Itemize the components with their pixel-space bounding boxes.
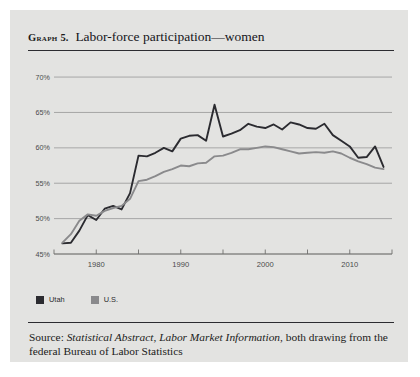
y-tick-label: 60%	[36, 143, 51, 152]
y-tick-label: 55%	[36, 179, 51, 188]
source-italic-statistical-abstract: Statistical Abstract	[67, 331, 154, 343]
graph-number: 5.	[61, 32, 69, 43]
y-tick-label: 45%	[36, 250, 51, 259]
source-italic-labor-market-information: Labor Market Information	[159, 331, 280, 343]
x-tick-label: 2000	[257, 260, 274, 269]
chart-legend: Utah U.S.	[36, 292, 144, 307]
legend-item-us: U.S.	[91, 295, 118, 304]
series-line-utah	[62, 105, 383, 244]
y-tick-label: 50%	[36, 214, 51, 223]
x-tick-label: 1980	[88, 260, 105, 269]
graph-label: Graph	[28, 32, 58, 43]
line-chart: 45%50%55%60%65%70%1980199020002010	[28, 58, 394, 282]
legend-swatch-us	[91, 296, 99, 304]
legend-swatch-utah	[36, 296, 44, 304]
y-tick-label: 70%	[36, 73, 51, 82]
page-title: Labor-force participation—women	[75, 29, 264, 45]
x-tick-label: 2010	[341, 260, 358, 269]
title-divider	[28, 50, 394, 51]
chart-plot-area: 45%50%55%60%65%70%1980199020002010	[28, 58, 394, 282]
y-tick-label: 65%	[36, 108, 51, 117]
source-note: Source: Statistical Abstract, Labor Mark…	[29, 330, 395, 359]
legend-label-us: U.S.	[104, 295, 118, 304]
series-line-us	[62, 146, 383, 242]
graph-card: Graph 5. Labor-force participation—women…	[10, 10, 408, 362]
legend-label-utah: Utah	[49, 295, 65, 304]
legend-item-utah: Utah	[36, 295, 65, 304]
source-divider	[28, 322, 394, 323]
x-tick-label: 1990	[172, 260, 189, 269]
source-prefix: Source:	[29, 331, 67, 343]
graph-title-row: Graph 5. Labor-force participation—women	[28, 24, 392, 50]
